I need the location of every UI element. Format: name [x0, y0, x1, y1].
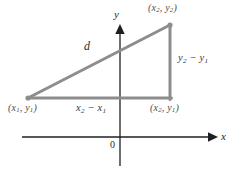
minus-operator: − — [85, 102, 98, 113]
paren-close: ) — [33, 102, 37, 113]
minus-operator: − — [187, 52, 200, 63]
x-axis-arrowhead-icon — [208, 132, 218, 142]
vertical-leg-label: y2 − y1 — [178, 53, 208, 64]
paren-close: ) — [175, 102, 179, 113]
horizontal-leg-label: x2 − x1 — [76, 103, 106, 114]
origin-label: 0 — [110, 140, 115, 150]
hypotenuse-segment — [28, 25, 170, 98]
x-axis-label: x — [221, 131, 226, 142]
vertex-marker-point2 — [167, 22, 172, 27]
sub-b: 1 — [102, 107, 106, 115]
paren-close: ) — [173, 2, 177, 13]
point-label-x2-y1: (x2, y1) — [150, 103, 179, 113]
y-axis-label: y — [114, 9, 119, 20]
figure-canvas — [0, 0, 245, 174]
y-axis-arrowhead-icon — [115, 24, 124, 34]
point-label-x2-y2: (x2, y2) — [148, 3, 177, 13]
distance-formula-figure: y x 0 (x2, y2) (x1, y1) (x2, y1) x2 − x1… — [0, 0, 245, 174]
vertex-marker-point1 — [25, 95, 30, 100]
sub-b: 1 — [204, 57, 208, 65]
y-axis — [115, 24, 124, 166]
point-label-x1-y1: (x1, y1) — [8, 103, 37, 113]
hypotenuse-label: d — [84, 40, 90, 52]
right-triangle — [25, 22, 172, 100]
